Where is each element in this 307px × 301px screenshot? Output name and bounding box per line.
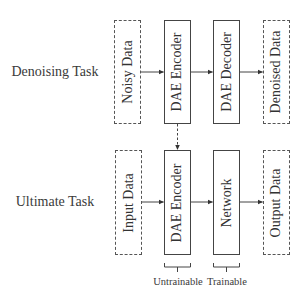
node-input-data-label: Input Data — [121, 173, 137, 232]
node-dae-encoder-top-label: DAE Encoder — [170, 33, 186, 112]
brace-untrainable — [165, 263, 191, 272]
node-dae-encoder-bottom-label: DAE Encoder — [170, 163, 186, 242]
node-denoised-data-label: Denoised Data — [269, 31, 285, 114]
node-network-label: Network — [219, 178, 235, 227]
node-output-data: Output Data — [263, 150, 290, 255]
node-dae-decoder-label: DAE Decoder — [219, 32, 235, 112]
node-noisy-data: Noisy Data — [114, 20, 141, 124]
brace-label-trainable: Trainable — [207, 276, 247, 287]
node-dae-encoder-top: DAE Encoder — [164, 20, 191, 124]
node-dae-decoder: DAE Decoder — [213, 20, 240, 124]
row-label-ultimate-task: Ultimate Task — [16, 194, 94, 210]
row-label-denoising-task: Denoising Task — [11, 64, 98, 80]
brace-label-untrainable: Untrainable — [153, 276, 203, 287]
node-network: Network — [213, 150, 240, 255]
node-denoised-data: Denoised Data — [263, 20, 290, 124]
node-dae-encoder-bottom: DAE Encoder — [164, 150, 191, 255]
node-output-data-label: Output Data — [269, 168, 285, 237]
node-noisy-data-label: Noisy Data — [120, 40, 136, 103]
node-input-data: Input Data — [115, 150, 142, 255]
brace-trainable — [214, 263, 240, 272]
connectors — [0, 0, 307, 301]
